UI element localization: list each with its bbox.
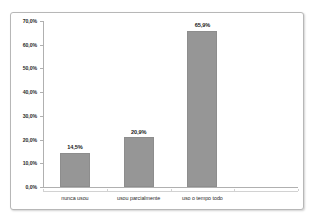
y-axis-tick-label: 40,0% — [23, 89, 37, 95]
chart-frame: 70,0% 60,0% 50,0% 40,0% 30,0% 20,0% 10,0… — [10, 12, 304, 210]
y-axis-tick-label: 20,0% — [23, 137, 37, 143]
category-axis: nunca usou usou parcialmente uso o tempo… — [43, 191, 298, 192]
y-axis-tick-label: 50,0% — [23, 65, 37, 71]
y-axis-tick-label: 70,0% — [23, 18, 37, 24]
bar-value-label: 14,5% — [67, 144, 82, 150]
bar-value-label: 65,9% — [195, 22, 210, 28]
bar-nunca-usou[interactable] — [60, 153, 90, 187]
y-axis-tick — [40, 187, 43, 188]
bar-value-label: 20,9% — [131, 129, 146, 135]
category-label-usou-parcialmente: usou parcialmente — [117, 195, 160, 201]
category-separator — [298, 189, 299, 191]
category-separator — [234, 189, 235, 191]
category-label-nunca-usou: nunca usou — [61, 195, 88, 201]
bar-slot-empty — [234, 21, 298, 187]
bar-slot: 65,9% — [171, 21, 235, 187]
y-axis-tick-label: 60,0% — [23, 42, 37, 48]
bar-slot: 14,5% — [43, 21, 107, 187]
bar-slot: 20,9% — [107, 21, 171, 187]
plot-area: 70,0% 60,0% 50,0% 40,0% 30,0% 20,0% 10,0… — [43, 21, 298, 187]
y-axis-tick-label: 10,0% — [23, 160, 37, 166]
category-label-uso-o-tempo-todo: uso o tempo todo — [182, 195, 223, 201]
category-separator — [171, 189, 172, 191]
bar-uso-o-tempo-todo[interactable] — [187, 31, 217, 187]
y-axis-tick-label: 30,0% — [23, 113, 37, 119]
y-axis-tick-label: 0,0% — [26, 184, 37, 190]
category-separator — [107, 189, 108, 191]
x-axis-line — [43, 187, 298, 188]
bar-usou-parcialmente[interactable] — [124, 137, 154, 187]
category-separator — [43, 189, 44, 191]
